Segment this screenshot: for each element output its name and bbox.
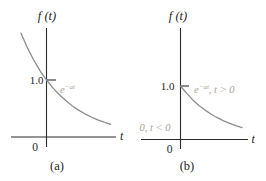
zero-region-label-b: 0, t < 0 — [140, 122, 172, 133]
curve-annotation-b-rest: , t > 0 — [209, 84, 236, 95]
caption-a: (a) — [50, 159, 64, 173]
origin-label-b: 0 — [167, 143, 173, 155]
caption-b: (b) — [180, 159, 195, 173]
y-axis-label-a: f (t) — [38, 9, 56, 23]
curve-annotation-a-exponent: −at — [65, 83, 76, 91]
x-axis-label-a: t — [120, 129, 124, 143]
y-axis-label-b: f (t) — [169, 9, 187, 23]
curve-annotation-b: e−at, t > 0 — [194, 83, 235, 96]
y-tick-label-a: 1.0 — [30, 74, 44, 86]
y-tick-label-b: 1.0 — [161, 80, 175, 92]
panel-b: f (t) t 1.0 0 (b) e−at, t > 0 0, t < 0 — [140, 9, 256, 173]
x-axis-label-b: t — [252, 132, 256, 146]
figure-exponential-plots: f (t) t 1.0 0 (a) e−at f (t) t 1.0 0 (b)… — [0, 0, 266, 181]
panel-a: f (t) t 1.0 0 (a) e−at — [11, 9, 124, 173]
origin-label-a: 0 — [32, 141, 38, 153]
curve-annotation-a: e−at — [60, 83, 76, 96]
